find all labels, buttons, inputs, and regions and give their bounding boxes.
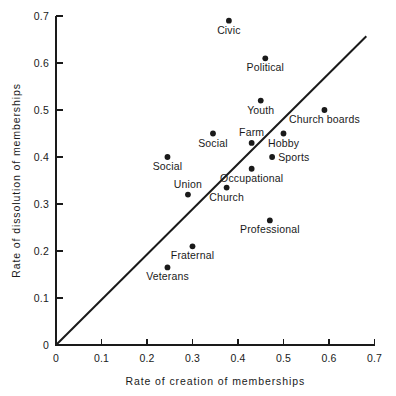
point-label: Social: [153, 160, 183, 172]
point-label: Social: [198, 137, 228, 149]
data-point-hobby-5: Hobby: [268, 131, 300, 149]
point-label: Occupational: [220, 172, 283, 184]
y-tick-label-0.7: 0.7: [34, 10, 49, 22]
axes: 00.10.20.30.40.50.60.700.10.20.30.40.50.…: [34, 10, 382, 364]
data-point-occupational-9: Occupational: [220, 166, 283, 184]
data-point-civic-0: Civic: [217, 18, 241, 36]
marker-dot: [249, 140, 255, 146]
x-tick-label-0.2: 0.2: [139, 352, 154, 364]
marker-dot: [185, 192, 191, 198]
point-label: Hobby: [268, 137, 300, 149]
y-tick-label-0.5: 0.5: [34, 104, 49, 116]
point-label: Farm: [239, 126, 264, 138]
point-label: Sports: [278, 151, 309, 163]
point-label: Church boards: [289, 113, 360, 125]
data-point-fraternal-13: Fraternal: [171, 243, 214, 261]
x-tick-label-0: 0: [53, 352, 59, 364]
data-point-social-6: Social: [198, 131, 228, 149]
x-axis-title: Rate of creation of memberships: [125, 375, 305, 387]
point-label: Church: [209, 191, 244, 203]
point-label: Professional: [240, 223, 300, 235]
marker-dot: [269, 154, 275, 160]
point-label: Political: [247, 61, 285, 73]
data-point-sports-8: Sports: [269, 151, 309, 163]
scatter-plot-figure: 00.10.20.30.40.50.60.700.10.20.30.40.50.…: [0, 0, 396, 396]
y-tick-label-0.3: 0.3: [34, 198, 49, 210]
x-tick-label-0.6: 0.6: [321, 352, 336, 364]
plot-canvas: 00.10.20.30.40.50.60.700.10.20.30.40.50.…: [0, 0, 396, 396]
data-point-youth-2: Youth: [247, 98, 274, 116]
point-label: Veterans: [146, 270, 189, 282]
point-label: Youth: [247, 104, 274, 116]
axis-spines: [56, 16, 375, 345]
y-tick-label-0.4: 0.4: [34, 151, 49, 163]
x-tick-label-0.4: 0.4: [230, 352, 245, 364]
caption-ghost: [18, 387, 378, 394]
x-tick-label-0.3: 0.3: [185, 352, 200, 364]
data-point-church-boards-3: Church boards: [289, 107, 360, 125]
data-point-veterans-14: Veterans: [146, 265, 189, 283]
data-point-social-7: Social: [153, 154, 183, 172]
y-axis-title: Rate of dissolution of memberships: [10, 83, 22, 278]
y-tick-label-0.1: 0.1: [34, 292, 49, 304]
x-tick-label-0.1: 0.1: [94, 352, 109, 364]
point-label: Civic: [217, 24, 241, 36]
data-point-union-11: Union: [174, 178, 202, 198]
data-point-professional-12: Professional: [240, 218, 300, 236]
point-label: Fraternal: [171, 249, 214, 261]
y-tick-label-0.6: 0.6: [34, 57, 49, 69]
point-label: Union: [174, 178, 202, 190]
x-tick-label-0.7: 0.7: [367, 352, 382, 364]
data-point-political-1: Political: [247, 55, 285, 73]
y-tick-label-0: 0: [43, 339, 49, 351]
y-tick-label-0.2: 0.2: [34, 245, 49, 257]
x-tick-label-0.5: 0.5: [276, 352, 291, 364]
